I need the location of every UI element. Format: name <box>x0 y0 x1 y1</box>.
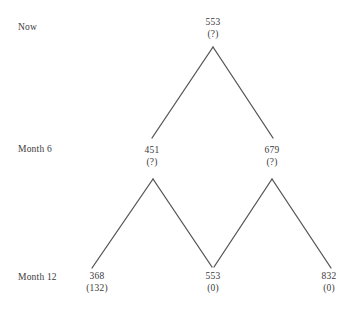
node-payoff-up-up-12: (0) <box>322 282 337 294</box>
node-payoff-root: (?) <box>206 28 221 40</box>
node-payoff-up-6: (?) <box>145 156 160 168</box>
tree-node-root: 553(?) <box>206 16 221 40</box>
tree-node-up-up-12: 832(0) <box>322 270 337 294</box>
tree-node-mid-12: 553(0) <box>206 270 221 294</box>
node-payoff-down-6: (?) <box>265 156 280 168</box>
tree-branch-679-to-553 <box>214 179 272 267</box>
node-value-down-down-12: 368 <box>86 270 108 282</box>
node-payoff-mid-12: (0) <box>206 282 221 294</box>
tree-branch-679-to-832 <box>272 179 331 268</box>
node-value-up-up-12: 832 <box>322 270 337 282</box>
tree-node-down-down-12: 368(132) <box>86 270 108 294</box>
tree-branch-root-to-451 <box>152 47 213 138</box>
node-value-mid-12: 553 <box>206 270 221 282</box>
node-value-root: 553 <box>206 16 221 28</box>
tree-node-up-6: 451(?) <box>145 144 160 168</box>
period-label-month6: Month 6 <box>18 144 52 154</box>
node-payoff-down-down-12: (132) <box>86 282 108 294</box>
node-value-up-6: 451 <box>145 144 160 156</box>
tree-branch-451-to-553 <box>153 179 212 267</box>
tree-branch-root-to-679 <box>213 47 273 138</box>
tree-node-down-6: 679(?) <box>265 144 280 168</box>
tree-branch-451-to-368 <box>92 179 153 268</box>
period-label-month12: Month 12 <box>18 272 57 282</box>
node-value-down-6: 679 <box>265 144 280 156</box>
period-label-now: Now <box>18 22 37 32</box>
binomial-tree-figure: NowMonth 6Month 12 553(?)451(?)679(?)368… <box>0 0 355 320</box>
